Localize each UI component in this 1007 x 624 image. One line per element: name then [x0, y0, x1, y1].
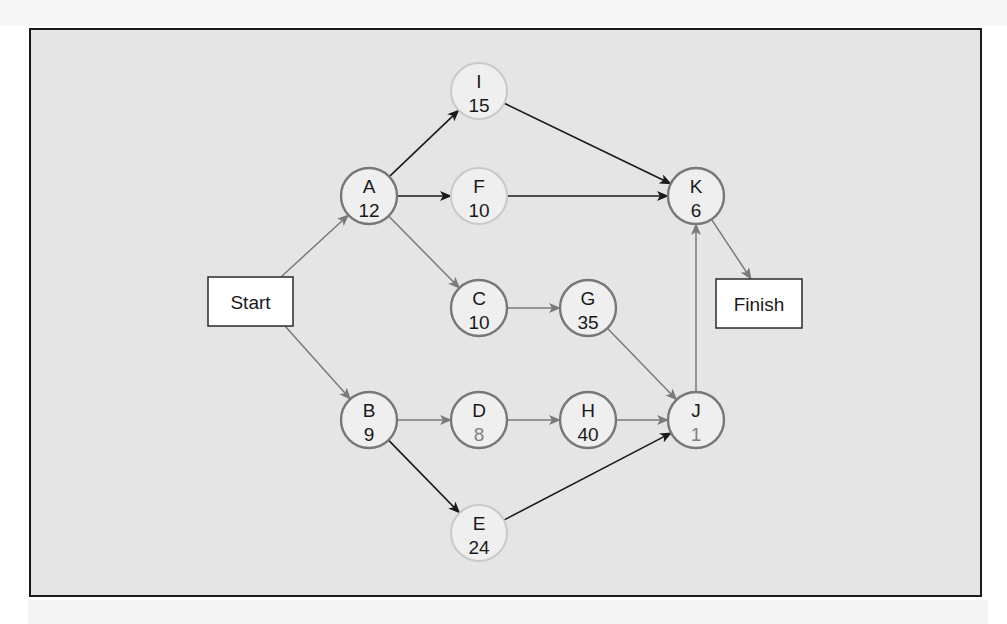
- activity-node-a: A12: [341, 168, 397, 224]
- activity-node-c: C10: [451, 280, 507, 336]
- node-label: G: [581, 288, 596, 309]
- activity-node-j: J1: [668, 392, 724, 448]
- edge-g-to-j: [607, 328, 676, 400]
- activity-node-k: K6: [668, 168, 724, 224]
- edge-a-to-c: [389, 216, 460, 288]
- node-label: C: [472, 288, 486, 309]
- node-duration: 24: [468, 537, 490, 558]
- node-label: I: [476, 71, 481, 92]
- activity-node-e: E24: [451, 505, 507, 561]
- activity-node-d: D8: [451, 392, 507, 448]
- node-duration: 12: [358, 200, 379, 221]
- node-label: E: [473, 513, 486, 534]
- edges: [281, 103, 751, 520]
- start-label: Start: [230, 292, 271, 313]
- node-label: F: [473, 176, 485, 197]
- edge-i-to-k: [504, 103, 671, 184]
- nodes: A12I15F10C10G35K6B9D8H40J1E24: [341, 63, 724, 561]
- node-duration: 6: [691, 200, 702, 221]
- node-duration: 10: [468, 200, 489, 221]
- edge-b-to-e: [389, 440, 460, 513]
- edge-start-to-b: [285, 326, 350, 399]
- node-label: D: [472, 400, 486, 421]
- activity-node-b: B9: [341, 392, 397, 448]
- finish-label: Finish: [734, 294, 785, 315]
- node-label: H: [581, 400, 595, 421]
- node-duration: 40: [577, 424, 598, 445]
- node-label: B: [363, 400, 376, 421]
- activity-node-f: F10: [451, 168, 507, 224]
- network-diagram: A12I15F10C10G35K6B9D8H40J1E24 StartFinis…: [0, 0, 1007, 624]
- start-box: Start: [208, 277, 293, 326]
- edge-start-to-a: [281, 215, 348, 277]
- finish-box: Finish: [716, 279, 802, 328]
- activity-node-i: I15: [451, 63, 507, 119]
- node-duration: 15: [468, 95, 489, 116]
- node-label: J: [691, 400, 701, 421]
- activity-node-h: H40: [560, 392, 616, 448]
- node-duration: 8: [474, 424, 485, 445]
- node-duration: 10: [468, 312, 489, 333]
- node-duration: 35: [577, 312, 598, 333]
- node-duration: 9: [364, 424, 375, 445]
- node-duration: 1: [691, 424, 702, 445]
- node-label: A: [363, 176, 376, 197]
- node-label: K: [690, 176, 703, 197]
- edge-a-to-i: [389, 110, 458, 176]
- activity-node-g: G35: [560, 280, 616, 336]
- edge-k-to-finish: [712, 219, 752, 279]
